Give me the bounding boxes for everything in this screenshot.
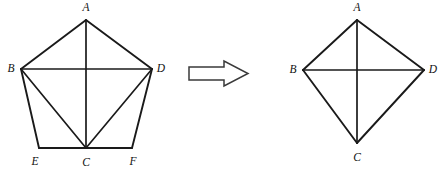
right-figure-edges (303, 20, 424, 143)
vertex-label-C-left: C (82, 156, 90, 168)
edge-B-C-right (303, 70, 357, 143)
vertex-label-D-right: D (428, 63, 438, 75)
edge-D-C-right (357, 70, 424, 143)
edge-A-B (21, 20, 86, 69)
vertex-label-D-left: D (156, 62, 166, 74)
left-figure-edges (21, 20, 152, 148)
vertex-label-E-left: E (30, 155, 38, 167)
vertex-label-B-left: B (7, 62, 14, 74)
diagram-canvas: A B D E C F A B D C (0, 0, 443, 172)
vertex-label-A-right: A (352, 1, 361, 13)
vertex-label-F-left: F (128, 155, 137, 167)
left-figure-pentagon: A B D E C F (7, 1, 165, 168)
transformation-arrow (189, 61, 248, 86)
vertex-label-C-right: C (353, 151, 361, 163)
right-figure-kite: A B D C (289, 1, 437, 163)
vertex-label-B-right: B (289, 63, 296, 75)
edge-A-D-right (357, 20, 424, 70)
edge-A-B-right (303, 20, 357, 70)
edge-A-D (86, 20, 152, 69)
vertex-label-A-left: A (81, 1, 90, 13)
